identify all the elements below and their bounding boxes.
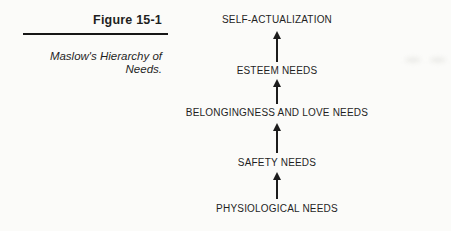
scan-smudge bbox=[405, 57, 421, 63]
figure-rule bbox=[23, 33, 168, 35]
level-label-esteem-needs: ESTEEM NEEDS bbox=[237, 65, 318, 76]
up-arrow-icon bbox=[271, 79, 283, 104]
scan-smudge bbox=[430, 57, 446, 63]
level-label-self-actualization: SELF-ACTUALIZATION bbox=[222, 14, 332, 25]
figure-number: Figure 15-1 bbox=[23, 13, 162, 27]
figure-caption-line-1: Maslow's Hierarchy of bbox=[23, 50, 162, 63]
up-arrow-icon bbox=[271, 31, 283, 62]
level-label-physiological-needs: PHYSIOLOGICAL NEEDS bbox=[216, 203, 338, 214]
figure-panel: Figure 15-1 Maslow's Hierarchy of Needs.… bbox=[0, 0, 451, 231]
figure-caption-line-2: Needs. bbox=[23, 63, 162, 76]
figure-caption: Maslow's Hierarchy of Needs. bbox=[23, 50, 162, 76]
up-arrow-icon bbox=[271, 123, 283, 153]
up-arrow-icon bbox=[271, 172, 283, 199]
hierarchy-diagram: SELF-ACTUALIZATION ESTEEM NEEDS BELONGIN… bbox=[160, 14, 394, 214]
level-label-belongingness-and-love-needs: BELONGINGNESS AND LOVE NEEDS bbox=[186, 107, 368, 118]
level-label-safety-needs: SAFETY NEEDS bbox=[238, 157, 316, 168]
